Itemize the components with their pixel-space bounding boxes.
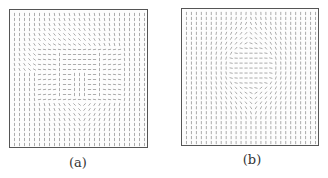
orientation-segment <box>216 86 217 89</box>
orientation-segment <box>226 71 227 74</box>
orientation-segment <box>109 23 110 26</box>
orientation-segment <box>69 103 71 106</box>
orientation-segment <box>269 68 272 69</box>
orientation-segment <box>235 97 237 100</box>
orientation-segment <box>221 57 222 60</box>
orientation-segment <box>216 96 217 99</box>
orientation-segment <box>69 108 71 111</box>
orientation-segment <box>255 111 256 114</box>
orientation-field-a <box>10 10 149 149</box>
orientation-segment <box>49 28 51 31</box>
orientation-segment <box>78 38 80 40</box>
orientation-segment <box>235 101 237 104</box>
orientation-segment <box>275 91 276 94</box>
orientation-segment <box>235 47 237 49</box>
orientation-segment <box>54 23 55 26</box>
orientation-segment <box>249 48 252 49</box>
orientation-segment <box>34 28 35 31</box>
orientation-segment <box>280 96 281 99</box>
orientation-segment <box>64 13 65 16</box>
orientation-segment <box>230 63 233 64</box>
orientation-segment <box>216 91 217 94</box>
orientation-segment <box>280 27 281 30</box>
orientation-segment <box>221 47 222 50</box>
orientation-segment <box>74 128 75 131</box>
orientation-segment <box>216 52 217 55</box>
orientation-segment <box>83 38 85 40</box>
orientation-segment <box>84 128 85 131</box>
orientation-segment <box>221 96 222 99</box>
orientation-segment <box>235 92 237 95</box>
orientation-segment <box>270 22 271 25</box>
orientation-segment <box>38 43 40 45</box>
orientation-segment <box>285 37 286 40</box>
orientation-segment <box>250 106 252 109</box>
orientation-segment <box>250 43 253 44</box>
orientation-segment <box>216 76 217 79</box>
orientation-segment <box>230 82 232 85</box>
orientation-segment <box>49 33 51 36</box>
orientation-segment <box>226 96 227 99</box>
orientation-segment <box>99 18 100 21</box>
orientation-segment <box>54 108 55 111</box>
orientation-segment <box>94 103 96 106</box>
orientation-segment <box>28 63 30 65</box>
orientation-segment <box>79 23 80 26</box>
orientation-segment <box>83 43 85 45</box>
orientation-segment <box>64 108 66 111</box>
orientation-segment <box>94 113 95 116</box>
orientation-segment <box>235 27 236 30</box>
orientation-segment <box>230 87 232 90</box>
orientation-segment <box>59 103 60 106</box>
orientation-segment <box>74 123 75 126</box>
orientation-segment <box>94 128 95 131</box>
orientation-segment <box>24 63 26 66</box>
orientation-segment <box>240 48 243 49</box>
orientation-segment <box>256 17 257 20</box>
orientation-segment <box>29 53 31 56</box>
orientation-segment <box>226 22 227 25</box>
orientation-segment <box>271 111 272 114</box>
orientation-segment <box>78 44 81 46</box>
orientation-segment <box>44 108 45 111</box>
orientation-segment <box>89 103 91 106</box>
orientation-segment <box>235 42 237 44</box>
orientation-segment <box>44 118 45 121</box>
orientation-segment <box>226 52 227 55</box>
orientation-segment <box>64 123 65 126</box>
orientation-segment <box>63 44 66 46</box>
orientation-segment <box>265 22 266 25</box>
orientation-segment <box>270 101 271 104</box>
orientation-segment <box>43 38 45 40</box>
orientation-segment <box>84 113 86 116</box>
orientation-segment <box>54 113 55 116</box>
orientation-segment <box>99 118 100 121</box>
orientation-segment <box>235 83 238 84</box>
orientation-segment <box>275 42 276 45</box>
orientation-segment <box>244 48 247 49</box>
orientation-segment <box>49 108 50 111</box>
orientation-segment <box>221 86 222 89</box>
orientation-segment <box>285 76 286 79</box>
orientation-segment <box>43 43 45 45</box>
orientation-segment <box>266 111 267 114</box>
orientation-segment <box>79 113 81 116</box>
orientation-segment <box>79 128 80 131</box>
orientation-segment <box>245 32 247 34</box>
orientation-segment <box>275 76 276 79</box>
orientation-segment <box>221 52 222 55</box>
orientation-segment <box>254 48 257 49</box>
orientation-segment <box>54 28 56 31</box>
orientation-segment <box>94 123 95 126</box>
panel-a <box>9 9 148 148</box>
orientation-segment <box>99 38 100 41</box>
orientation-segment <box>83 103 85 105</box>
orientation-segment <box>285 47 286 50</box>
orientation-segment <box>235 37 237 40</box>
orientation-segment <box>99 103 100 106</box>
orientation-segment <box>265 47 267 49</box>
orientation-segment <box>99 123 100 126</box>
orientation-segment <box>246 17 247 20</box>
orientation-segment <box>259 48 262 49</box>
orientation-segment <box>280 37 281 40</box>
